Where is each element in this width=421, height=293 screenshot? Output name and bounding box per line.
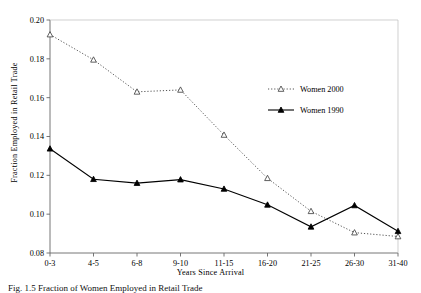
data-point-marker: [221, 132, 227, 137]
legend-marker: [278, 86, 284, 91]
x-tick-label: 0-3: [45, 259, 56, 268]
data-point-marker: [352, 230, 358, 235]
y-tick-label: 0.16: [30, 94, 44, 103]
x-tick-label: 9-10: [173, 259, 188, 268]
data-point-marker: [47, 32, 53, 37]
y-tick-label: 0.14: [30, 132, 44, 141]
y-tick-label: 0.12: [30, 171, 44, 180]
data-point-marker: [47, 146, 53, 151]
data-point-marker: [91, 57, 97, 62]
y-axis-title: Fraction Employed in Retail Trade: [10, 23, 19, 223]
x-tick-label: 16-20: [258, 259, 277, 268]
x-tick-label: 6-8: [132, 259, 143, 268]
x-axis-title: Years Since Arrival: [0, 268, 421, 277]
y-tick-label: 0.20: [30, 16, 44, 25]
y-tick-label: 0.08: [30, 249, 44, 258]
data-point-marker: [352, 202, 358, 207]
x-tick-label: 26-30: [345, 259, 364, 268]
figure-caption: Fig. 1.5 Fraction of Women Employed in R…: [8, 283, 418, 293]
data-point-marker: [265, 175, 271, 180]
x-tick-label: 4-5: [88, 259, 99, 268]
x-tick-label: 11-15: [215, 259, 234, 268]
line-chart: 0.080.100.120.140.160.180.200-34-56-89-1…: [0, 0, 421, 293]
data-point-marker: [308, 208, 314, 213]
figure-container: 0.080.100.120.140.160.180.200-34-56-89-1…: [0, 0, 421, 293]
y-tick-label: 0.18: [30, 55, 44, 64]
legend-label: Women 1990: [300, 106, 344, 115]
legend-label: Women 2000: [300, 85, 344, 94]
y-tick-label: 0.10: [30, 210, 44, 219]
x-tick-label: 21-25: [301, 259, 320, 268]
x-tick-label: 31-40: [388, 259, 407, 268]
data-point-marker: [395, 228, 401, 233]
data-point-marker: [308, 224, 314, 229]
